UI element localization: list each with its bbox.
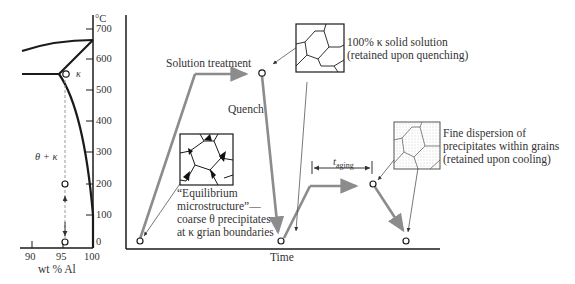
aging-subscript: aging [336, 161, 354, 170]
x-tick-100: 100 [84, 251, 100, 262]
x-axis-label-composition: wt % Al [38, 263, 76, 276]
x-tick-90: 90 [25, 251, 36, 262]
annotation-solid-solution: 100% κ solid solution (retained upon que… [347, 36, 468, 62]
annotation-fine-dispersion: Fine dispersion of precipitates within g… [443, 127, 559, 166]
phase-label-kappa: κ [76, 67, 81, 80]
phase-diagram [20, 15, 93, 248]
micrograph-fine-dispersion [394, 122, 440, 169]
y-tick-600: 600 [96, 53, 112, 64]
annotation-fine-line-1: Fine dispersion of [443, 127, 559, 140]
annotation-equilibrium: “Equilibrium microstructure”— coarse θ p… [177, 187, 274, 239]
x-tick-95: 95 [56, 251, 67, 262]
y-tick-0: 0 [96, 236, 101, 247]
y-tick-700: 700 [96, 23, 112, 34]
y-tick-200: 200 [96, 178, 112, 189]
y-tick-400: 400 [96, 115, 112, 126]
y-tick-500: 500 [96, 84, 112, 95]
annotation-solid-solution-line-1: 100% κ solid solution [347, 36, 468, 49]
label-quench: Quench [228, 103, 264, 116]
y-tick-300: 300 [96, 146, 112, 157]
phase-label-theta-kappa: θ + κ [35, 150, 58, 163]
annotation-solid-solution-line-2: (retained upon quenching) [347, 49, 468, 62]
x-axis-label-time: Time [270, 251, 294, 264]
annotation-equilibrium-line-2: microstructure”— [177, 200, 274, 213]
micrograph-equilibrium [180, 134, 233, 185]
annotation-fine-line-3: (retained upon cooling) [443, 153, 559, 166]
annotation-equilibrium-line-1: “Equilibrium [177, 187, 274, 200]
annotation-equilibrium-line-4: at κ grian boundaries [177, 226, 274, 239]
y-tick-100: 100 [96, 209, 112, 220]
micrograph-solid-solution [296, 24, 344, 72]
annotation-equilibrium-line-3: coarse θ precipitates [177, 213, 274, 226]
annotation-fine-line-2: precipitates within grains [443, 140, 559, 153]
label-aging-time: taging [333, 155, 354, 172]
label-solution-treatment: Solution treatment [166, 57, 251, 70]
